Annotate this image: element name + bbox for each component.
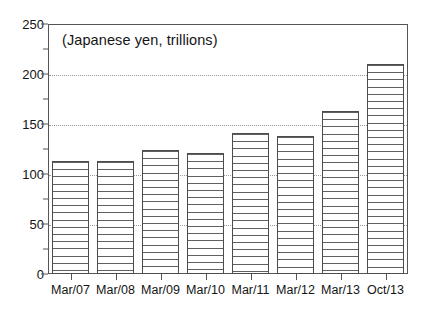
y-tick-minor-175 (43, 99, 48, 100)
x-tick-1 (116, 274, 117, 280)
x-tick-label-3: Mar/10 (186, 283, 225, 297)
x-tick-4 (251, 274, 252, 280)
bar-5 (277, 136, 314, 274)
y-tick-minor-75 (43, 199, 48, 200)
bars-layer (48, 24, 408, 274)
x-tick-0 (71, 274, 72, 280)
y-tick-major-0 (41, 274, 48, 275)
y-tick-label-200: 200 (4, 67, 44, 82)
x-tick-6 (341, 274, 342, 280)
bar-0 (52, 161, 89, 274)
y-tick-label-150: 150 (4, 117, 44, 132)
x-tick-label-4: Mar/11 (232, 283, 270, 297)
x-tick-3 (206, 274, 207, 280)
x-tick-label-7: Oct/13 (367, 283, 404, 297)
bar-2 (142, 150, 179, 274)
y-tick-label-0: 0 (4, 267, 44, 282)
y-tick-major-100 (41, 174, 48, 175)
y-tick-label-50: 50 (4, 217, 44, 232)
x-tick-label-0: Mar/07 (51, 283, 90, 297)
x-tick-label-2: Mar/09 (141, 283, 180, 297)
y-tick-minor-25 (43, 249, 48, 250)
bar-7 (367, 64, 404, 274)
x-tick-label-1: Mar/08 (96, 283, 135, 297)
bar-chart: (Japanese yen, trillions) 250 200 150 10… (0, 0, 432, 314)
bar-4 (232, 133, 269, 274)
bar-6 (322, 111, 359, 274)
y-tick-label-250: 250 (4, 17, 44, 32)
y-tick-minor-225 (43, 49, 48, 50)
x-tick-7 (386, 274, 387, 280)
x-tick-label-6: Mar/13 (321, 283, 360, 297)
chart-title: (Japanese yen, trillions) (62, 32, 218, 48)
y-tick-label-100: 100 (4, 167, 44, 182)
y-axis: 250 200 150 100 50 0 (0, 0, 44, 314)
x-tick-label-5: Mar/12 (276, 283, 315, 297)
y-tick-major-250 (41, 24, 48, 25)
bar-1 (97, 161, 134, 274)
y-tick-major-50 (41, 224, 48, 225)
y-tick-major-150 (41, 124, 48, 125)
x-tick-2 (161, 274, 162, 280)
x-tick-5 (296, 274, 297, 280)
y-tick-minor-125 (43, 149, 48, 150)
y-tick-major-200 (41, 74, 48, 75)
bar-3 (187, 153, 224, 274)
